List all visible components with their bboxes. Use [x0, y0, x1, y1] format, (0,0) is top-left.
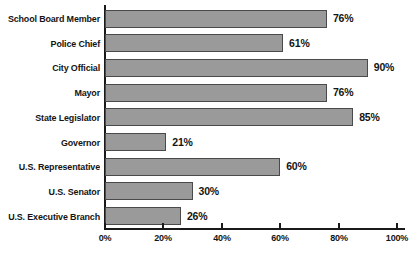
axis-tick-label: 80%: [318, 232, 360, 243]
category-label: City Official: [6, 55, 100, 80]
category-label: U.S. Representative: [6, 154, 100, 179]
bar-value-label: 30%: [199, 179, 219, 204]
table-row: City Official90%: [0, 55, 413, 80]
axis-tick-label: 20%: [142, 232, 184, 243]
table-row: State Legislator85%: [0, 105, 413, 130]
bar-fill: [105, 133, 166, 151]
axis-tick-label: 0%: [84, 232, 126, 243]
bar-fill: [105, 182, 193, 200]
bar-chart: School Board Member76%Police Chief61%Cit…: [0, 0, 413, 255]
axis-tick-label: 100%: [376, 232, 413, 243]
axis-tick: [221, 223, 223, 230]
category-label: Governor: [6, 130, 100, 155]
category-label: U.S. Executive Branch: [6, 204, 100, 229]
bar-value-label: 21%: [172, 130, 192, 155]
table-row: U.S. Executive Branch26%: [0, 204, 413, 229]
table-row: U.S. Senator30%: [0, 179, 413, 204]
bar: [105, 10, 327, 28]
bar-value-label: 61%: [289, 31, 309, 56]
category-label: School Board Member: [6, 6, 100, 31]
table-row: U.S. Representative60%: [0, 154, 413, 179]
bar-value-label: 76%: [333, 80, 353, 105]
bar: [105, 59, 368, 77]
axis-tick: [162, 223, 164, 230]
bar: [105, 34, 283, 52]
bar: [105, 207, 181, 225]
bar-fill: [105, 10, 327, 28]
bar-value-label: 60%: [286, 154, 306, 179]
bar-value-label: 76%: [333, 6, 353, 31]
bar-fill: [105, 34, 283, 52]
bar: [105, 108, 353, 126]
category-label: Mayor: [6, 80, 100, 105]
axis-tick: [338, 223, 340, 230]
bar-value-label: 90%: [374, 55, 394, 80]
bar-value-label: 26%: [187, 204, 207, 229]
category-label: U.S. Senator: [6, 179, 100, 204]
table-row: Governor21%: [0, 130, 413, 155]
axis-tick-label: 40%: [201, 232, 243, 243]
axis-tick-label: 60%: [259, 232, 301, 243]
category-label: Police Chief: [6, 31, 100, 56]
bar-value-label: 85%: [359, 105, 379, 130]
category-label: State Legislator: [6, 105, 100, 130]
bar-fill: [105, 59, 368, 77]
bar: [105, 133, 166, 151]
axis-tick: [279, 223, 281, 230]
bar: [105, 158, 280, 176]
bar: [105, 182, 193, 200]
axis-tick: [104, 223, 106, 230]
table-row: School Board Member76%: [0, 6, 413, 31]
bar-fill: [105, 108, 353, 126]
bar-fill: [105, 84, 327, 102]
bar-fill: [105, 207, 181, 225]
table-row: Mayor76%: [0, 80, 413, 105]
table-row: Police Chief61%: [0, 31, 413, 56]
bar-fill: [105, 158, 280, 176]
bar: [105, 84, 327, 102]
axis-tick: [396, 223, 398, 230]
